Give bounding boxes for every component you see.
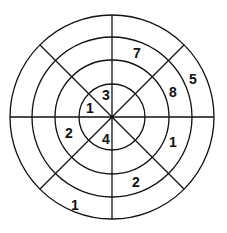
number-ring3-top-right: 7: [133, 45, 141, 61]
number-ring4-upper-right: 5: [189, 71, 197, 87]
circular-number-puzzle: 3 1 4 2 1 8 7 2 5 1: [0, 0, 227, 233]
center-point: [110, 115, 114, 119]
number-inner-upper-left-side: 1: [86, 100, 94, 116]
number-ring2-upper-right: 8: [169, 84, 177, 100]
number-ring3-bottom-right: 2: [132, 174, 140, 190]
number-ring2-left-lower: 2: [65, 125, 73, 141]
number-inner-lower-left: 4: [102, 131, 110, 147]
number-ring2-right-lower: 1: [169, 134, 177, 150]
number-inner-upper-left-top: 3: [102, 87, 110, 103]
number-ring4-bottom-left: 1: [71, 197, 79, 213]
